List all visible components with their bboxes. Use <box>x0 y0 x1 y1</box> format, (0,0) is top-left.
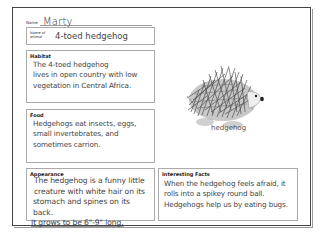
interesting-facts-section: Interesting Facts When the hedgehog feel… <box>158 168 298 221</box>
text-line: stomach and spines on its back. <box>31 197 151 218</box>
text-line: The 4-toed hedgehog <box>33 60 151 70</box>
text-line: small invertebrates, and <box>33 129 151 139</box>
text-line: creature with white hair on its <box>31 187 151 198</box>
food-section: Food Hedgehogs eat insects, eggs, small … <box>26 109 155 163</box>
text-line: The hedgehog is a funny little <box>31 176 151 187</box>
text-line: When the hedgehog feels afraid, it <box>164 179 294 189</box>
habitat-text: The 4-toed hedgehog lives in open countr… <box>33 60 151 91</box>
appearance-section: Appearance The hedgehog is a funny littl… <box>26 168 155 221</box>
interesting-facts-text: When the hedgehog feels afraid, it rolls… <box>164 179 294 210</box>
text-line: It grows to be 6"-9" long. <box>31 218 151 229</box>
animal-name-value: 4-toed hedgehog <box>55 31 128 41</box>
animal-label-line-2: animal <box>30 35 45 39</box>
text-line: Hedgehogs eat insects, eggs, <box>33 119 151 129</box>
interesting-facts-title: Interesting Facts <box>162 171 210 177</box>
appearance-text: The hedgehog is a funny little creature … <box>31 176 151 229</box>
food-title: Food <box>30 112 44 118</box>
habitat-title: Habitat <box>30 53 51 59</box>
name-label: Name <box>26 20 38 25</box>
picture-caption: hedgehog <box>211 124 246 132</box>
habitat-section: Habitat The 4-toed hedgehog lives in ope… <box>26 50 155 103</box>
hedgehog-icon <box>185 50 295 150</box>
text-line: rolls into a spikey round ball. <box>164 189 294 199</box>
name-row: Name Marty <box>26 13 152 27</box>
animal-name-label: Name of animal <box>30 31 45 39</box>
food-text: Hedgehogs eat insects, eggs, small inver… <box>33 119 151 150</box>
text-line: lives in open country with low <box>33 70 151 80</box>
text-line: vegetation in Central Africa. <box>33 81 151 91</box>
name-value: Marty <box>43 16 73 27</box>
text-line: sometimes carrion. <box>33 140 151 150</box>
text-line: Hedgehogs help us by eating bugs. <box>164 200 294 210</box>
animal-name-box: Name of animal 4-toed hedgehog <box>26 27 155 45</box>
